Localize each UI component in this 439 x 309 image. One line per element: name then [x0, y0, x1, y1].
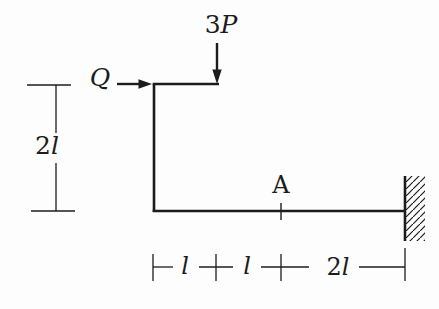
- dim-bottom-2-symbol: l: [243, 252, 251, 280]
- force-q-label: Q: [90, 65, 111, 90]
- dim-bottom-1-symbol: l: [181, 252, 189, 280]
- force-q-symbol: Q: [90, 63, 111, 92]
- force-q-arrowhead-icon: [139, 79, 153, 88]
- point-a-label: A: [272, 173, 289, 197]
- dim-bottom-3-symbol: l: [342, 253, 350, 281]
- dim-bottom-label-2: l: [243, 254, 251, 278]
- wall-hatching: [406, 176, 425, 241]
- force-3p-arrowhead-icon: [212, 70, 221, 85]
- frame-diagram: 3P Q 2l A l l 2l: [0, 0, 439, 309]
- dim-bottom-3-coefficient: 2: [327, 253, 342, 281]
- dim-left-label: 2l: [35, 133, 59, 158]
- dim-bottom-label-3: 2l: [327, 255, 350, 279]
- diagram-linework: [0, 0, 439, 309]
- force-3p-symbol: P: [221, 10, 238, 39]
- dim-bottom-label-1: l: [181, 254, 189, 278]
- dim-left-coefficient: 2: [35, 131, 51, 160]
- force-3p-coefficient: 3: [205, 10, 221, 39]
- force-3p-label: 3P: [205, 12, 238, 37]
- point-a-text: A: [272, 171, 289, 199]
- dim-left-symbol: l: [51, 131, 59, 160]
